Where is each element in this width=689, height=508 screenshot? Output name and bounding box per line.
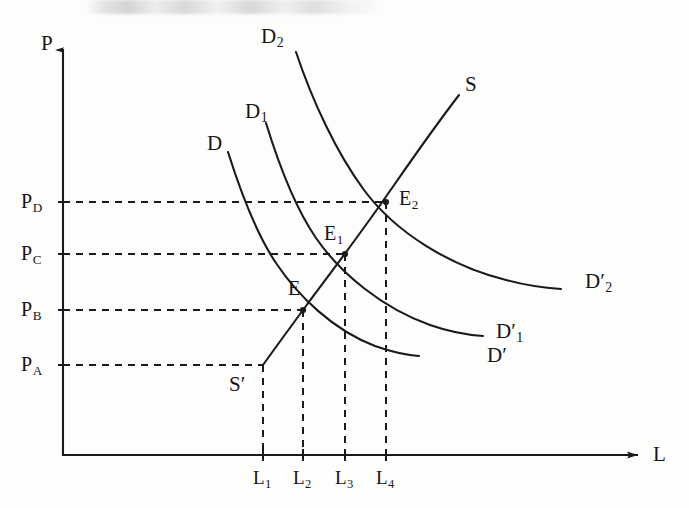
price-label-PA: PA	[21, 354, 42, 374]
equilibrium-label-E: E	[288, 278, 300, 298]
point-E	[300, 307, 306, 313]
curve-D2	[296, 52, 561, 289]
curve-label-D-prime-1: D′1	[496, 321, 523, 342]
curve-label-D-prime: D′	[487, 345, 507, 366]
price-label-PD: PD	[21, 191, 42, 211]
point-E1	[342, 251, 348, 257]
quantity-label-L4: L4	[376, 468, 394, 487]
curve-label-S-prime: S′	[229, 374, 245, 395]
y-axis-label: P	[41, 33, 53, 54]
equilibrium-label-E1: E1	[324, 223, 343, 243]
prime-mark-d: ′	[502, 343, 507, 367]
curve-label-D2: D2	[261, 26, 284, 47]
point-E2	[383, 199, 389, 205]
curve-label-D1: D1	[245, 101, 268, 122]
quantity-label-L1: L1	[253, 468, 271, 487]
price-label-PC: PC	[21, 243, 41, 263]
curve-label-D-prime-2: D′2	[585, 271, 612, 292]
equilibrium-label-E2: E2	[399, 188, 418, 208]
curve-label-S: S	[465, 74, 477, 95]
quantity-label-L3: L3	[335, 468, 353, 487]
curve-D1	[266, 123, 483, 336]
supply-demand-chart	[0, 0, 689, 508]
quantity-label-L2: L2	[293, 468, 311, 487]
curve-label-D: D	[207, 133, 222, 154]
axis-group	[63, 50, 637, 455]
prime-mark-s: ′	[241, 372, 246, 396]
x-axis-label: L	[653, 444, 666, 465]
diagram-canvas: P L PD PC PB PA L1 L2 L3 L4 D D1 D2 D′ D…	[0, 0, 689, 508]
price-label-PB: PB	[21, 299, 41, 319]
